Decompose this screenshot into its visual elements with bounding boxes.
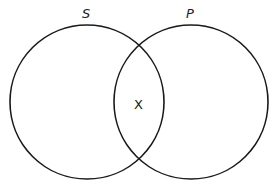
label-s: S: [82, 6, 90, 21]
label-p: P: [186, 6, 194, 21]
venn-diagram: S P X: [0, 0, 278, 185]
intersection-mark: X: [134, 97, 143, 112]
